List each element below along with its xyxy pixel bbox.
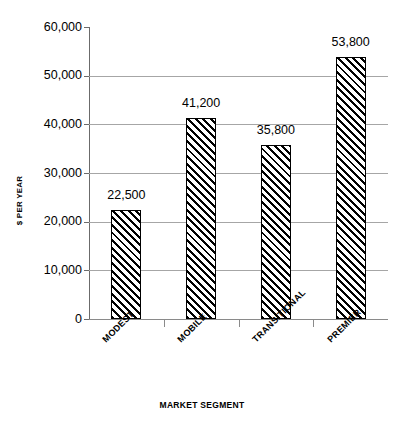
y-axis-tick-label: 10,000 [20, 264, 82, 277]
y-axis-tick-labels: 010,00020,00030,00040,00050,00060,000 [16, 0, 82, 424]
bar [261, 145, 291, 319]
x-axis-title: MARKET SEGMENT [0, 400, 404, 410]
bar [186, 118, 216, 319]
bar-value-label: 22,500 [81, 189, 171, 202]
bar-value-label: 53,800 [306, 36, 396, 49]
x-axis-separator-tick [239, 320, 240, 327]
bar [336, 57, 366, 319]
y-axis-tick-label: 0 [20, 313, 82, 326]
y-axis-tick-label: 60,000 [20, 21, 82, 34]
y-axis-tick [84, 222, 89, 223]
y-axis-tick-label: 20,000 [20, 215, 82, 228]
y-axis-tick-label: 40,000 [20, 118, 82, 131]
y-axis-tick [84, 270, 89, 271]
x-axis-separator-tick [313, 320, 314, 327]
y-axis-tick [84, 27, 89, 28]
y-axis-tick [84, 76, 89, 77]
bar [111, 210, 141, 320]
y-axis-tick [84, 173, 89, 174]
y-axis-tick [84, 124, 89, 125]
y-axis-tick-label: 30,000 [20, 167, 82, 180]
x-axis-separator-tick [164, 320, 165, 327]
bar-chart: $ PER YEAR 010,00020,00030,00040,00050,0… [0, 0, 404, 424]
y-axis-tick [84, 319, 89, 320]
y-axis-tick-label: 50,000 [20, 69, 82, 82]
plot-area [89, 27, 388, 319]
bar-value-label: 41,200 [156, 97, 246, 110]
bar-value-label: 35,800 [231, 124, 321, 137]
